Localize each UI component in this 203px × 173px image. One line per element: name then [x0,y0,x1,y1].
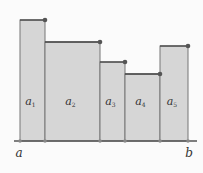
right-endpoint-dot [123,60,128,65]
rectangle-5: a5 [160,46,188,141]
partition-point [43,139,47,143]
right-endpoint-dot [186,44,191,49]
rectangle-fill [45,42,100,141]
axis-label-b: b [185,146,193,160]
axis-label-a: a [15,146,22,160]
partition-point [186,139,190,143]
rectangle-4: a4 [125,74,160,141]
rectangle-1: a1 [20,20,45,141]
rectangle-3: a3 [100,62,125,141]
partition-point [18,139,22,143]
rectangle-2: a2 [45,42,100,141]
right-endpoint-dot [43,18,48,23]
partition-point [123,139,127,143]
partition-point [158,139,162,143]
riemann-sum-diagram: a1a2a3a4a5 a b [0,0,203,173]
rectangle-fill [20,20,45,141]
right-endpoint-dot [98,40,103,45]
rectangles-group: a1a2a3a4a5 [20,20,188,141]
partition-point [98,139,102,143]
right-endpoint-dot [158,72,163,77]
rectangle-fill [160,46,188,141]
